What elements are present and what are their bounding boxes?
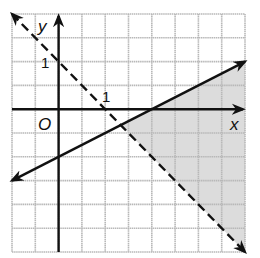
y-tick-label-1: 1 bbox=[41, 54, 49, 71]
y-axis-label: y bbox=[37, 17, 48, 36]
x-tick-label-1: 1 bbox=[102, 88, 110, 105]
coordinate-graph: y x O 1 1 bbox=[0, 0, 260, 258]
x-axis-label: x bbox=[229, 115, 239, 134]
origin-label: O bbox=[38, 115, 51, 134]
